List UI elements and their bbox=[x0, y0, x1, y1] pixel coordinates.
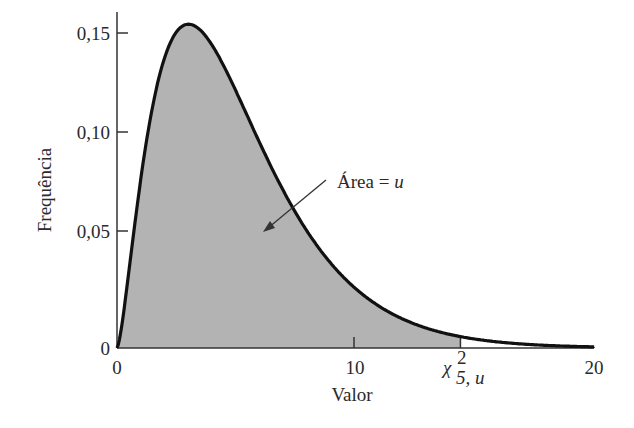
x-tick-label-10: 10 bbox=[346, 357, 365, 378]
area-annotation: Área = u bbox=[337, 171, 404, 192]
y-tick-label-015: 0,15 bbox=[77, 23, 110, 44]
y-tick-label-005: 0,05 bbox=[77, 221, 110, 242]
x-axis-title: Valor bbox=[331, 384, 373, 405]
x-tick-label-20: 20 bbox=[585, 357, 604, 378]
x-tick-label-0: 0 bbox=[112, 357, 122, 378]
svg-text:χ: χ bbox=[441, 357, 452, 378]
chi-square-chart: 0,15 0,10 0,05 0 0 10 20 χ 2 5, u Valor … bbox=[0, 0, 634, 428]
shaded-area-u bbox=[117, 24, 460, 348]
y-tick-label-0: 0 bbox=[101, 338, 111, 359]
y-axis-title: Frequência bbox=[34, 147, 55, 232]
svg-text:5, u: 5, u bbox=[456, 367, 485, 388]
svg-text:2: 2 bbox=[457, 347, 467, 368]
critical-value-label: χ 2 5, u bbox=[441, 347, 485, 388]
y-tick-label-010: 0,10 bbox=[77, 122, 110, 143]
